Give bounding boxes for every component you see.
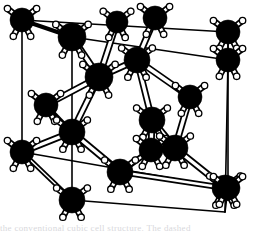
stub-tip [106,34,112,40]
atom-sphere [59,187,85,213]
stub-tip [133,105,139,111]
stub-tip [78,52,84,58]
stub-tip [122,34,128,40]
crystal-structure-figure: the conventional cubic cell structure. T… [0,0,263,235]
stub-tip [195,110,201,116]
stub-tip [125,74,131,80]
stub-tip [10,165,16,171]
stub-tip [53,21,59,27]
stub-tip [156,133,162,139]
stub-tip [100,8,106,14]
stub-tip [187,133,193,139]
stub-tip [101,157,107,163]
atom-sphere [178,85,202,109]
stub-tip [163,162,169,168]
stub-tip [118,45,124,51]
atom-sphere [10,8,34,32]
stub-tip [216,201,222,207]
stub-tip [60,214,66,220]
stub-tip [210,173,216,179]
atom-sphere [58,23,86,51]
stub-tip [239,45,245,51]
stub-tip [149,45,155,51]
stub-tip [133,135,139,141]
stub-tip [137,3,143,9]
stub-tip [239,17,245,23]
stub-tip [80,61,86,67]
stub-tip [33,5,39,11]
stub-tip [126,186,132,192]
stub-tip [233,73,239,79]
diamond-cubic-lattice-svg [0,0,263,235]
stub-tip [85,21,91,27]
stub-tip [139,163,145,169]
stub-tip [233,201,239,207]
figure-caption: the conventional cubic cell structure. T… [0,221,263,235]
stub-tip [53,117,59,123]
atom-sphere [216,176,240,200]
stub-tip [181,162,187,168]
stub-tip [28,90,34,96]
stub-tip [178,110,184,116]
stub-tip [86,92,92,98]
atom-sphere [139,138,163,162]
stub-tip [59,52,65,58]
stub-tip [108,186,114,192]
stub-tip [143,74,149,80]
atom-sphere [143,6,167,30]
atom-sphere [34,93,58,117]
stub-tip [172,82,178,88]
stub-tip [10,33,16,39]
stub-tip [210,45,216,51]
atom-sphere [10,140,34,164]
stub-tip [166,3,172,9]
atom-sphere [162,135,188,161]
stub-tip [60,146,66,152]
stub-tip [128,8,134,14]
stub-tip [143,31,149,37]
stub-tip [164,105,170,111]
atom-sphere [124,47,150,73]
stub-tip [27,165,33,171]
stub-tip [78,146,84,152]
atom-sphere [107,159,133,185]
stub-tip [160,31,166,37]
stub-tip [210,17,216,23]
stub-tip [4,137,10,143]
stub-tip [84,185,90,191]
atom-sphere [216,48,240,72]
atom-sphere [85,63,113,91]
stub-tip [78,214,84,220]
atom-sphere [139,107,165,133]
atom-sphere [59,119,85,145]
stub-tip [112,61,118,67]
stub-tip [201,82,207,88]
stub-tip [33,137,39,143]
stub-tip [156,163,162,169]
stub-tip [239,173,245,179]
stub-tip [53,185,59,191]
stub-tip [27,33,33,39]
stub-tip [216,73,222,79]
stub-tip [34,118,40,124]
stub-tip [132,157,138,163]
stub-tip [57,90,63,96]
stub-tip [105,92,111,98]
atom-sphere [216,20,240,44]
stub-tip [4,5,10,11]
atom-sphere [106,11,128,33]
stub-tip [84,117,90,123]
